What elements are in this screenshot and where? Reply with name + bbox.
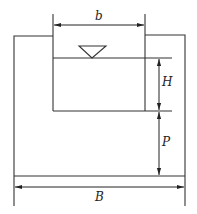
water-level-triangle-icon [79, 46, 106, 58]
label-b: b [95, 9, 103, 23]
label-B: B [94, 190, 104, 204]
weir-diagram: b H P B [0, 0, 197, 214]
label-P: P [161, 135, 171, 149]
label-H: H [161, 75, 173, 89]
